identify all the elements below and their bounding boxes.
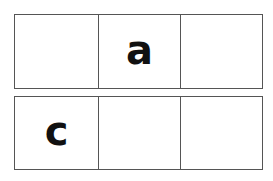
letter-box[interactable] [180,15,262,88]
letter-box[interactable] [98,97,180,169]
letter: c [45,111,69,151]
letter-box[interactable]: c [15,97,98,169]
letter: a [126,30,153,70]
letter-box[interactable] [15,15,98,88]
letter-box[interactable]: a [98,15,180,88]
letter-row-1: a [14,14,263,89]
letter-row-2: c [14,96,263,170]
letter-box[interactable] [180,97,262,169]
